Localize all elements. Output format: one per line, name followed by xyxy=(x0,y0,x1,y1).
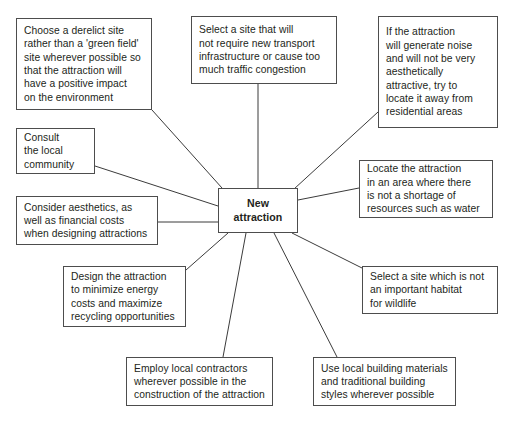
c-resource-shortage xyxy=(298,188,359,200)
node-label-resource-shortage: Locate the attraction in an area where t… xyxy=(360,162,492,215)
c-wildlife-habitat xyxy=(292,233,362,268)
node-wildlife-habitat[interactable]: Select a site which is not an important … xyxy=(362,266,498,314)
node-label-noise-aesthetics: If the attraction will generate noise an… xyxy=(379,25,497,118)
node-label-local-materials: Use local building materials and traditi… xyxy=(314,362,455,402)
node-transport-infrastructure[interactable]: Select a site that will not require new … xyxy=(191,16,337,84)
c-local-materials xyxy=(274,233,337,357)
node-energy-recycling[interactable]: Design the attraction to minimize energy… xyxy=(63,266,186,327)
node-label-consult-community: Consult the local community xyxy=(17,131,94,171)
node-label-derelict-site: Choose a derelict site rather than a 'gr… xyxy=(17,24,151,104)
spider-diagram: Choose a derelict site rather than a 'gr… xyxy=(0,0,507,421)
c-local-contractors xyxy=(223,233,246,357)
node-label-aesthetics-costs: Consider aesthetics, as well as financia… xyxy=(17,201,157,241)
node-derelict-site[interactable]: Choose a derelict site rather than a 'gr… xyxy=(16,18,152,110)
node-label-wildlife-habitat: Select a site which is not an important … xyxy=(363,270,497,310)
center-node-label: New attraction xyxy=(219,197,297,224)
node-local-materials[interactable]: Use local building materials and traditi… xyxy=(313,357,456,406)
node-local-contractors[interactable]: Employ local contractors wherever possib… xyxy=(126,357,273,406)
node-label-energy-recycling: Design the attraction to minimize energy… xyxy=(64,270,185,323)
node-resource-shortage[interactable]: Locate the attraction in an area where t… xyxy=(359,160,493,218)
node-consult-community[interactable]: Consult the local community xyxy=(16,128,95,174)
c-derelict-site xyxy=(152,110,222,188)
node-label-local-contractors: Employ local contractors wherever possib… xyxy=(127,362,272,402)
center-node[interactable]: New attraction xyxy=(218,188,298,233)
node-label-transport-infrastructure: Select a site that will not require new … xyxy=(192,23,336,76)
node-aesthetics-costs[interactable]: Consider aesthetics, as well as financia… xyxy=(16,196,158,245)
c-energy-recycling xyxy=(186,233,228,270)
node-noise-aesthetics[interactable]: If the attraction will generate noise an… xyxy=(378,16,498,128)
